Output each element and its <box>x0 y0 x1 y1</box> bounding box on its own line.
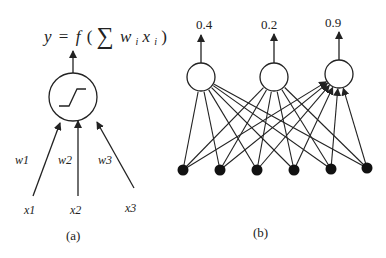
output-value-1: 0.4 <box>196 17 213 32</box>
input-label-3: x3 <box>124 201 136 215</box>
input-node-2 <box>215 165 226 176</box>
connection-in2-out1 <box>204 92 220 170</box>
output-node-2 <box>260 63 288 91</box>
panel-b-network: 0.40.20.9 (b) <box>178 15 373 240</box>
input-node-6 <box>362 163 373 174</box>
caption-b: (b) <box>253 225 268 240</box>
weight-label-3: w3 <box>98 153 112 167</box>
input-node-1 <box>178 165 189 176</box>
output-value-2: 0.2 <box>261 17 277 32</box>
input-node-5 <box>326 164 337 175</box>
connection-in1-out1 <box>183 92 198 170</box>
input-label-2: x2 <box>69 203 81 217</box>
caption-a: (a) <box>66 228 80 243</box>
output-value-3: 0.9 <box>325 15 341 30</box>
output-node-1 <box>187 63 215 91</box>
weight-label-1: w1 <box>15 153 29 167</box>
output-node-3 <box>325 60 353 88</box>
connection-in3-out3 <box>257 85 329 170</box>
step-sigmoid-icon <box>59 89 86 106</box>
input-arrow-1 <box>33 123 60 196</box>
formula: y = f ( ∑ w i x i ) <box>42 23 167 50</box>
connection-in5-out2 <box>282 90 331 169</box>
weight-label-2: w2 <box>58 153 72 167</box>
input-node-3 <box>252 165 263 176</box>
connection-in1-out2 <box>183 88 264 170</box>
connection-in5-out3 <box>331 89 338 169</box>
neural-network-figure: y = f ( ∑ w i x i ) x1w1x2w2x3w3 (a) 0.4… <box>0 0 386 258</box>
input-node-4 <box>289 165 300 176</box>
figure-canvas: y = f ( ∑ w i x i ) x1w1x2w2x3w3 (a) 0.4… <box>0 0 386 258</box>
panel-a-single-neuron: y = f ( ∑ w i x i ) x1w1x2w2x3w3 (a) <box>15 23 167 243</box>
input-label-1: x1 <box>23 203 35 217</box>
